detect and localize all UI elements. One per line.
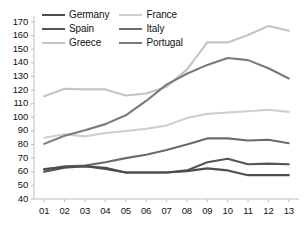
legend-label: Germany xyxy=(69,9,109,20)
y-tick-label: 100 xyxy=(2,111,28,122)
x-tick-label: 02 xyxy=(55,205,75,216)
y-tick-label: 160 xyxy=(2,29,28,40)
y-tick-label: 130 xyxy=(2,70,28,81)
legend-swatch-germany xyxy=(42,14,65,16)
legend-item-greece: Greece xyxy=(42,36,109,49)
legend-item-spain: Spain xyxy=(42,22,109,35)
legend-item-germany: Germany xyxy=(42,8,109,21)
legend-item-italy: Italy xyxy=(119,22,182,35)
y-tick-label: 120 xyxy=(2,84,28,95)
x-tick-label: 03 xyxy=(75,205,95,216)
x-tick-label: 09 xyxy=(197,205,217,216)
y-tick-label: 150 xyxy=(2,43,28,54)
y-tick-label: 50 xyxy=(2,179,28,190)
legend-label: France xyxy=(146,9,177,20)
legend-label: Portugal xyxy=(146,37,182,48)
legend-item-portugal: Portugal xyxy=(119,36,182,49)
x-tick-label: 01 xyxy=(34,205,54,216)
series-line-germany xyxy=(44,166,289,175)
legend-item-france: France xyxy=(119,8,182,21)
legend-swatch-greece xyxy=(42,42,65,44)
y-tick-label: 140 xyxy=(2,56,28,67)
y-tick-label: 170 xyxy=(2,16,28,27)
x-tick-label: 04 xyxy=(95,205,115,216)
legend-label: Italy xyxy=(146,23,164,34)
x-tick-label: 10 xyxy=(218,205,238,216)
x-tick-label: 07 xyxy=(157,205,177,216)
legend-swatch-france xyxy=(119,14,142,16)
x-tick-label: 08 xyxy=(177,205,197,216)
legend-swatch-italy xyxy=(119,28,142,30)
x-tick-label: 11 xyxy=(238,205,258,216)
y-tick-label: 80 xyxy=(2,138,28,149)
legend-label: Spain xyxy=(69,23,94,34)
legend-label: Greece xyxy=(69,37,101,48)
y-tick-label: 60 xyxy=(2,165,28,176)
line-chart: 405060708090100110120130140150160170 010… xyxy=(0,0,305,227)
series-line-france xyxy=(44,110,289,138)
y-tick-label: 70 xyxy=(2,152,28,163)
x-tick-label: 13 xyxy=(279,205,299,216)
x-tick-label: 12 xyxy=(258,205,278,216)
y-tick-label: 40 xyxy=(2,193,28,204)
y-tick-label: 90 xyxy=(2,124,28,135)
y-tick-label: 110 xyxy=(2,97,28,108)
x-tick-label: 05 xyxy=(116,205,136,216)
legend-swatch-portugal xyxy=(119,42,142,44)
legend-swatch-spain xyxy=(42,28,65,30)
series-line-portugal xyxy=(44,58,289,144)
x-tick-label: 06 xyxy=(136,205,156,216)
chart-legend: GermanyFranceSpainItalyGreecePortugal xyxy=(42,8,183,49)
